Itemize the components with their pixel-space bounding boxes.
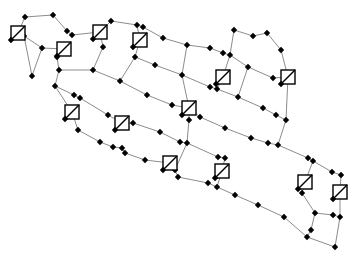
- sensor-marker: [62, 105, 79, 122]
- sensor-marker: [160, 156, 177, 173]
- sensor-marker: [212, 164, 229, 181]
- network-figure: [0, 0, 358, 256]
- sensor-marker: [330, 185, 347, 202]
- figure-background: [0, 0, 358, 256]
- sensor-marker: [8, 26, 25, 43]
- sensor-marker: [179, 101, 196, 118]
- network-canvas: [0, 0, 358, 256]
- sensor-marker: [112, 116, 129, 133]
- sensor-marker: [54, 42, 71, 59]
- sensor-marker: [295, 175, 312, 192]
- sensor-marker: [213, 70, 230, 87]
- sensor-marker: [278, 70, 295, 87]
- sensor-marker: [90, 25, 107, 42]
- sensor-marker: [130, 33, 147, 50]
